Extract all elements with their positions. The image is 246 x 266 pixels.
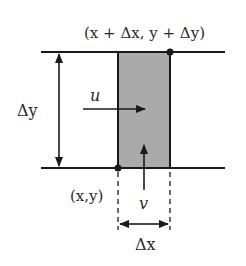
bottom-left-corner-dot: [115, 165, 122, 172]
delta-x-label: Δx: [135, 235, 156, 254]
u-label: u: [90, 86, 100, 105]
top-corner-label: (x + Δx, y + Δy): [84, 24, 205, 42]
v-label: v: [139, 194, 148, 213]
control-volume-diagram: (x + Δx, y + Δy) (x,y) Δy Δx u v: [0, 0, 246, 266]
delta-y-label: Δy: [17, 101, 38, 120]
top-right-corner-dot: [167, 49, 174, 56]
bottom-corner-label: (x,y): [70, 187, 103, 205]
